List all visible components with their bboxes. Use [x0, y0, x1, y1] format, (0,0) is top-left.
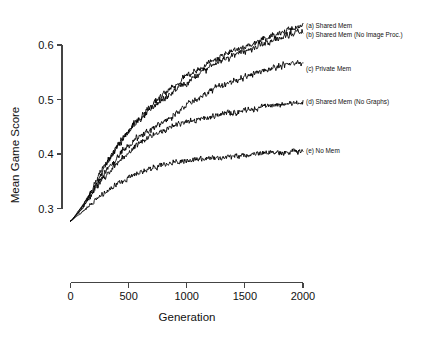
y-axis-title: Mean Game Score [9, 107, 21, 204]
chart-figure: 0.30.40.50.6 0500100015002000 (a) Shared… [0, 0, 424, 340]
series-label-a: (a) Shared Mem [306, 22, 352, 30]
y-axis-tick-label: 0.6 [38, 39, 53, 51]
x-axis-tick-label: 1500 [233, 290, 257, 302]
chart-background [0, 0, 424, 340]
y-axis-tick-label: 0.3 [38, 203, 53, 215]
x-axis-title: Generation [159, 311, 216, 323]
series-label-d: (d) Shared Mem (No Graphs) [306, 98, 389, 106]
x-axis-tick-label: 1000 [175, 290, 199, 302]
y-axis-tick-label: 0.4 [38, 148, 53, 160]
x-axis-tick-label: 0 [67, 290, 73, 302]
x-axis-tick-label: 2000 [291, 290, 315, 302]
mean-game-score-line-chart: 0.30.40.50.6 0500100015002000 (a) Shared… [0, 0, 424, 340]
series-label-e: (e) No Mem [306, 147, 340, 155]
series-label-b: (b) Shared Mem (No Image Proc.) [306, 31, 403, 39]
y-axis-tick-label: 0.5 [38, 94, 53, 106]
x-axis-tick-label: 500 [119, 290, 137, 302]
series-label-c: (c) Private Mem [306, 65, 351, 73]
